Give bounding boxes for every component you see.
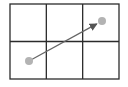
end-point: [98, 17, 106, 25]
diagram-canvas: [0, 0, 128, 87]
start-point: [25, 57, 33, 65]
vector-arrow: [29, 24, 97, 61]
